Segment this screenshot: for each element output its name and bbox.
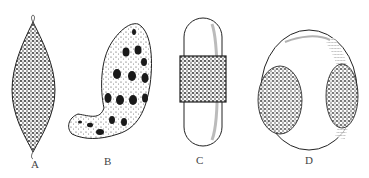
specimen-b	[69, 24, 152, 139]
label-b: B	[104, 155, 111, 167]
label-a: A	[31, 158, 39, 170]
illustration	[0, 0, 369, 178]
label-c: C	[196, 154, 203, 166]
figure: A B C D	[0, 0, 369, 178]
specimen-c	[180, 18, 226, 146]
label-d: D	[305, 154, 313, 166]
specimen-d	[258, 30, 358, 150]
specimen-a	[12, 15, 55, 159]
